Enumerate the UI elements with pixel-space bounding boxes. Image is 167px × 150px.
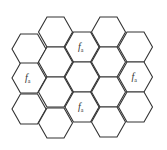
- hexagon-grid-diagram: fafafafa: [0, 0, 167, 150]
- hexagon-cell: [119, 92, 153, 122]
- hexagon-cell: [119, 32, 153, 62]
